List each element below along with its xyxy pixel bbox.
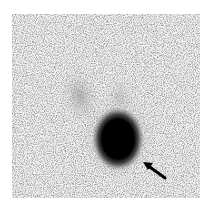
hot-spot	[92, 107, 144, 171]
scintigraphy-image	[0, 0, 208, 213]
